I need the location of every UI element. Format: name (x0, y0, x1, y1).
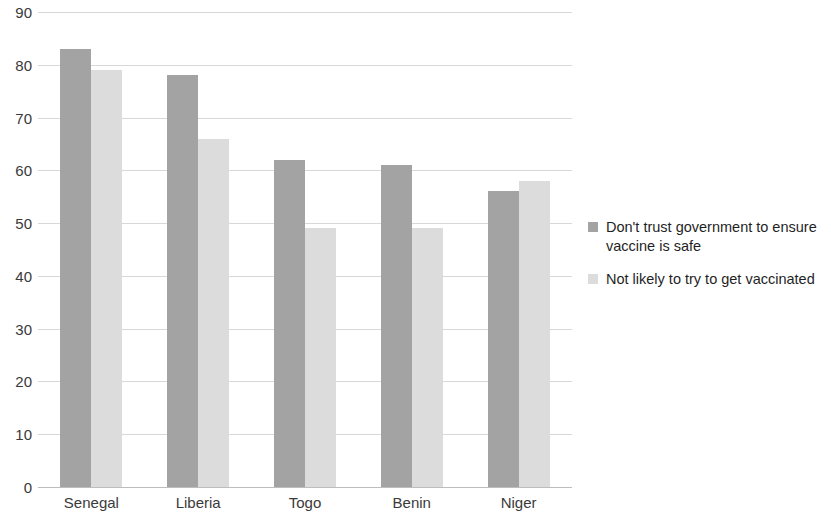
legend-entry: Not likely to try to get vaccinated (588, 270, 831, 289)
y-axis-tick-label: 70 (2, 110, 32, 125)
legend-label: Not likely to try to get vaccinated (606, 270, 815, 289)
bar (519, 181, 550, 487)
bar-groups (38, 12, 572, 487)
x-axis-tick-label: Benin (358, 492, 465, 513)
bar (198, 139, 229, 487)
x-axis-tick-label: Niger (465, 492, 572, 513)
legend-label: Don't trust government to ensure vaccine… (606, 218, 831, 256)
bar (274, 160, 305, 487)
bar-group (252, 12, 359, 487)
axis-baseline (38, 487, 572, 488)
legend-swatch-icon (588, 274, 598, 284)
plot-area (38, 12, 572, 487)
bar (381, 165, 412, 487)
y-axis-tick-label: 0 (2, 480, 32, 495)
y-axis-tick-labels: 9080706050403020100 (0, 12, 32, 487)
chart-legend: Don't trust government to ensure vaccine… (588, 218, 831, 303)
bar (91, 70, 122, 487)
y-axis-tick-label: 30 (2, 321, 32, 336)
y-axis-tick-label: 40 (2, 268, 32, 283)
y-axis-tick-label: 60 (2, 163, 32, 178)
bar-group (358, 12, 465, 487)
x-axis-tick-label: Togo (252, 492, 359, 513)
bar-group (145, 12, 252, 487)
bar (167, 75, 198, 487)
bar (412, 228, 443, 487)
y-axis-tick-label: 90 (2, 5, 32, 20)
x-axis-category-labels: SenegalLiberiaTogoBeninNiger (38, 492, 572, 513)
legend-swatch-icon (588, 222, 598, 232)
bar (488, 191, 519, 487)
bar-chart: 9080706050403020100 SenegalLiberiaTogoBe… (0, 0, 831, 519)
y-axis-tick-label: 50 (2, 216, 32, 231)
bar-group (465, 12, 572, 487)
bar-group (38, 12, 145, 487)
legend-entry: Don't trust government to ensure vaccine… (588, 218, 831, 256)
y-axis-tick-label: 10 (2, 427, 32, 442)
bar (305, 228, 336, 487)
y-axis-tick-label: 20 (2, 374, 32, 389)
x-axis-tick-label: Liberia (145, 492, 252, 513)
bar (60, 49, 91, 487)
x-axis-tick-label: Senegal (38, 492, 145, 513)
y-axis-tick-label: 80 (2, 57, 32, 72)
